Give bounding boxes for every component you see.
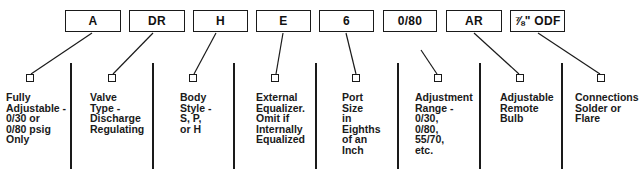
description-connections: Connections Solder or Flare	[575, 92, 639, 124]
column-divider	[479, 63, 481, 169]
checkbox-square	[597, 74, 605, 82]
description-valve-type: Valve Type - Discharge Regulating	[90, 92, 144, 134]
column-divider	[233, 63, 235, 169]
code-box-connections: ⅞" ODF	[510, 10, 565, 32]
description-adjustment-range: Adjustment Range - 0/30, 0/80, 55/70, et…	[415, 92, 473, 156]
code-box-remote-bulb: AR	[446, 10, 502, 32]
code-box-equalizer: E	[256, 10, 311, 32]
description-remote-bulb: Adjustable Remote Bulb	[500, 92, 554, 124]
column-divider	[397, 63, 399, 169]
code-box-port-size: 6	[319, 10, 374, 32]
checkbox-square	[108, 74, 116, 82]
description-port-size: Port Size in Eighths of an Inch	[342, 92, 381, 156]
description-type: Fully Adjustable - 0/30 or 0/80 psig Onl…	[6, 92, 66, 145]
column-divider	[70, 63, 72, 169]
checkbox-square	[516, 74, 524, 82]
code-box-valve-type: DR	[129, 10, 185, 32]
description-body-style: Body Style - S, P, or H	[180, 92, 212, 134]
checkbox-square	[352, 74, 360, 82]
code-box-type: A	[65, 10, 121, 32]
code-box-adjustment-range: 0/80	[383, 10, 437, 32]
checkbox-square	[434, 74, 442, 82]
code-box-body-style: H	[193, 10, 248, 32]
column-divider	[152, 63, 154, 169]
column-divider	[561, 63, 563, 169]
column-divider	[315, 63, 317, 169]
checkbox-square	[271, 74, 279, 82]
description-equalizer: External Equalizer. Omit if Internally E…	[256, 92, 305, 145]
checkbox-square	[189, 74, 197, 82]
checkbox-square	[26, 74, 34, 82]
